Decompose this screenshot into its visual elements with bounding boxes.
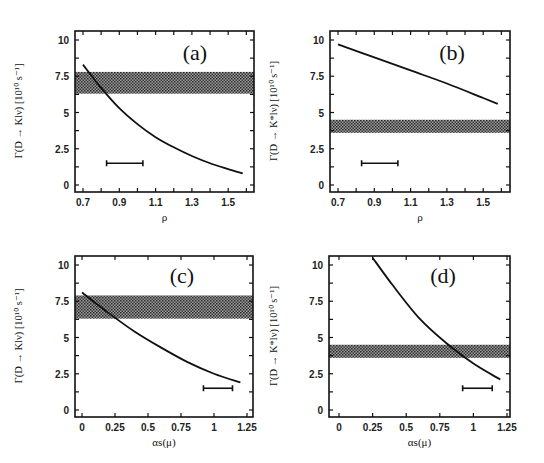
plot-frame — [330, 31, 510, 192]
panel-b: 0.70.91.11.31.502.557.510ρΓ(D → K*lν) [1… — [268, 31, 510, 223]
error-bar — [203, 385, 232, 391]
y-tick-label: 10 — [313, 35, 325, 46]
x-tick-label: 1.3 — [440, 197, 454, 208]
theory-curve — [338, 44, 498, 103]
y-tick-label: 7.5 — [55, 296, 69, 307]
axis-ticks — [330, 31, 510, 192]
x-tick-label: 0.25 — [363, 422, 383, 433]
y-tick-label: 2.5 — [310, 144, 324, 155]
y-tick-label: 10 — [58, 260, 70, 271]
x-tick-label: 1.25 — [237, 422, 257, 433]
x-axis-label: ρ — [162, 211, 168, 223]
panel-tag: (c) — [170, 263, 194, 288]
axis-ticks — [329, 256, 510, 417]
x-tick-label: 0.5 — [141, 422, 155, 433]
x-axis-label: αs(μ) — [152, 436, 176, 449]
x-tick-label: 1 — [211, 422, 217, 433]
y-axis-label: Γ(D → Klν) [10¹⁰ s⁻¹] — [13, 289, 25, 384]
y-tick-label: 5 — [63, 108, 69, 119]
plot-frame — [75, 256, 253, 417]
y-axis-label: Γ(D → Klν) [10¹⁰ s⁻¹] — [13, 64, 25, 159]
panel-tag: (b) — [439, 40, 465, 65]
x-tick-label: 0 — [336, 422, 342, 433]
y-tick-label: 7.5 — [309, 296, 323, 307]
x-tick-label: 1 — [471, 422, 477, 433]
x-tick-label: 0.25 — [105, 422, 125, 433]
y-tick-label: 2.5 — [55, 369, 69, 380]
error-bar — [463, 385, 493, 391]
figure: 0.70.91.11.31.502.557.510ρΓ(D → Klν) [10… — [0, 0, 544, 463]
plot-frame — [329, 256, 510, 417]
x-tick-label: 0.75 — [430, 422, 450, 433]
y-axis-label: Γ(D → K*lν) [10¹⁰ s⁻¹] — [268, 286, 280, 386]
y-tick-label: 0 — [63, 405, 69, 416]
y-tick-label: 7.5 — [310, 71, 324, 82]
x-tick-label: 0.9 — [367, 197, 381, 208]
y-tick-label: 0 — [317, 405, 323, 416]
error-bar — [362, 160, 398, 166]
error-bar — [107, 160, 143, 166]
x-axis-label: αs(μ) — [408, 436, 432, 449]
y-tick-label: 0 — [63, 180, 69, 191]
panel-c: 00.250.50.7511.2502.557.510αs(μ)Γ(D → Kl… — [13, 256, 257, 449]
x-tick-label: 0.7 — [331, 197, 345, 208]
y-tick-label: 10 — [312, 260, 324, 271]
y-tick-label: 2.5 — [309, 369, 323, 380]
x-tick-label: 1.5 — [476, 197, 490, 208]
x-tick-label: 0.9 — [112, 197, 126, 208]
panel-tag: (d) — [430, 263, 456, 288]
panel-tag: (a) — [183, 40, 207, 65]
x-tick-label: 1.1 — [149, 197, 163, 208]
x-tick-label: 0.7 — [76, 197, 90, 208]
y-tick-label: 5 — [63, 333, 69, 344]
experimental-band — [330, 120, 510, 133]
panel-d: 00.250.50.7511.2502.557.510αs(μ)Γ(D → K*… — [268, 256, 517, 449]
y-tick-label: 0 — [318, 180, 324, 191]
x-tick-label: 0.5 — [399, 422, 413, 433]
x-tick-label: 1.5 — [221, 197, 235, 208]
x-axis-label: ρ — [417, 211, 423, 223]
experimental-band — [329, 345, 510, 358]
panel-a: 0.70.91.11.31.502.557.510ρΓ(D → Klν) [10… — [13, 31, 254, 223]
y-tick-label: 5 — [317, 333, 323, 344]
axis-ticks — [75, 256, 253, 417]
x-tick-label: 1.25 — [497, 422, 517, 433]
experimental-band — [75, 72, 254, 94]
y-tick-label: 7.5 — [55, 71, 69, 82]
y-axis-label: Γ(D → K*lν) [10¹⁰ s⁻¹] — [268, 61, 280, 161]
y-tick-label: 10 — [58, 35, 70, 46]
y-tick-label: 2.5 — [55, 144, 69, 155]
x-tick-label: 1.1 — [404, 197, 418, 208]
x-tick-label: 1.3 — [185, 197, 199, 208]
x-tick-label: 0.75 — [171, 422, 191, 433]
x-tick-label: 0 — [79, 422, 85, 433]
y-tick-label: 5 — [318, 108, 324, 119]
